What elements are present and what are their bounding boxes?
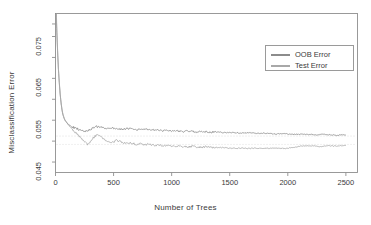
x-tick-label: 500 bbox=[94, 178, 134, 187]
legend-item: OOB Error bbox=[266, 49, 353, 60]
plot-area bbox=[0, 0, 371, 225]
y-tick-label: 0.055 bbox=[34, 120, 43, 139]
legend-line-icon bbox=[271, 65, 290, 67]
legend-line-icon bbox=[271, 54, 290, 56]
x-tick-label: 2000 bbox=[268, 178, 308, 187]
chart-legend: OOB ErrorTest Error bbox=[265, 45, 354, 71]
x-tick-label: 1000 bbox=[152, 178, 192, 187]
x-tick-label: 1500 bbox=[210, 178, 250, 187]
x-tick-label: 0 bbox=[36, 178, 76, 187]
legend-label: Test Error bbox=[295, 60, 328, 71]
y-tick-label: 0.065 bbox=[34, 78, 43, 97]
legend-label: OOB Error bbox=[295, 49, 330, 60]
chart-figure: Misclassification Error Number of Trees … bbox=[0, 0, 371, 225]
x-tick-label: 2500 bbox=[326, 178, 366, 187]
y-tick-label: 0.075 bbox=[34, 37, 43, 56]
legend-item: Test Error bbox=[266, 60, 353, 71]
